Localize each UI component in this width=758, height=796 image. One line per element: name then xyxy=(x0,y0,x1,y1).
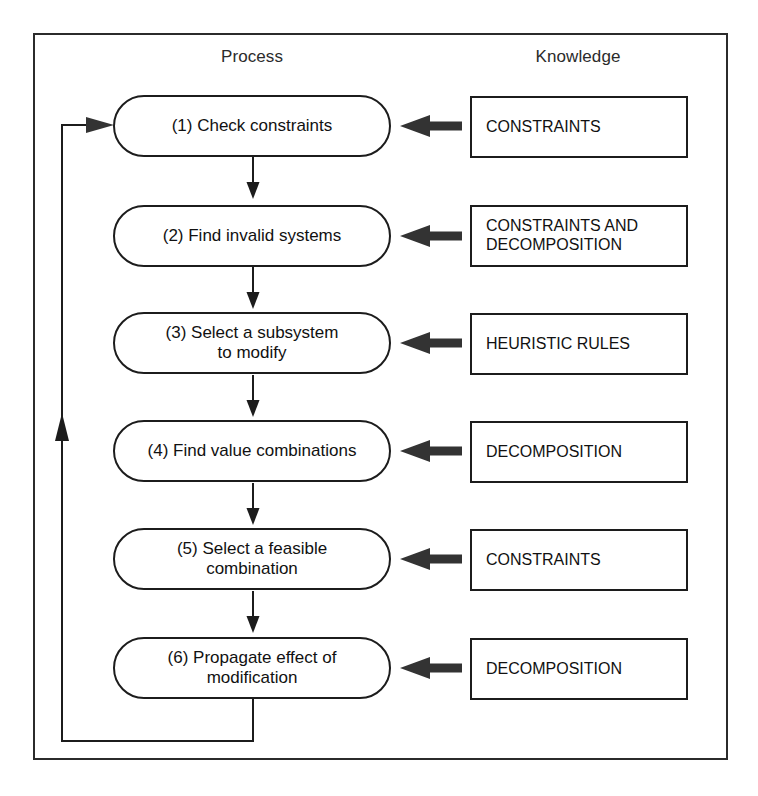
flow-arrow-5-to-6 xyxy=(238,591,268,634)
process-label-3: (3) Select a subsystem to modify xyxy=(156,323,349,363)
process-box-6[interactable]: (6) Propagate effect of modification xyxy=(113,637,391,699)
knowledge-box-2[interactable]: CONSTRAINTS AND DECOMPOSITION xyxy=(470,205,688,267)
process-box-1[interactable]: (1) Check constraints xyxy=(113,95,391,157)
knowledge-arrow-1 xyxy=(400,113,462,139)
knowledge-box-5[interactable]: CONSTRAINTS xyxy=(470,529,688,591)
process-label-4: (4) Find value combinations xyxy=(138,441,367,461)
flowchart-figure: Process Knowledge (1) Check constraints … xyxy=(0,0,758,796)
knowledge-label-3: HEURISTIC RULES xyxy=(472,335,630,354)
process-label-1: (1) Check constraints xyxy=(162,116,343,136)
knowledge-box-3[interactable]: HEURISTIC RULES xyxy=(470,313,688,375)
knowledge-box-4[interactable]: DECOMPOSITION xyxy=(470,421,688,483)
process-box-2[interactable]: (2) Find invalid systems xyxy=(113,205,391,267)
knowledge-label-2: CONSTRAINTS AND DECOMPOSITION xyxy=(472,217,638,254)
knowledge-arrow-5 xyxy=(400,546,462,572)
knowledge-label-5: CONSTRAINTS xyxy=(472,551,601,570)
flow-arrow-3-to-4 xyxy=(238,375,268,418)
knowledge-label-1: CONSTRAINTS xyxy=(472,118,601,137)
process-box-4[interactable]: (4) Find value combinations xyxy=(113,420,391,482)
flow-arrow-4-to-5 xyxy=(238,483,268,526)
process-box-5[interactable]: (5) Select a feasible combination xyxy=(113,528,391,590)
column-header-knowledge: Knowledge xyxy=(478,47,678,67)
process-label-5: (5) Select a feasible combination xyxy=(167,539,337,579)
knowledge-box-6[interactable]: DECOMPOSITION xyxy=(470,638,688,700)
flow-arrow-1-to-2 xyxy=(238,157,268,200)
knowledge-box-1[interactable]: CONSTRAINTS xyxy=(470,96,688,158)
knowledge-arrow-3 xyxy=(400,330,462,356)
knowledge-label-4: DECOMPOSITION xyxy=(472,443,622,462)
knowledge-arrow-2 xyxy=(400,223,462,249)
process-label-2: (2) Find invalid systems xyxy=(153,226,352,246)
process-label-6: (6) Propagate effect of modification xyxy=(158,648,347,688)
knowledge-arrow-6 xyxy=(400,655,462,681)
knowledge-label-6: DECOMPOSITION xyxy=(472,660,622,679)
process-box-3[interactable]: (3) Select a subsystem to modify xyxy=(113,312,391,374)
knowledge-arrow-4 xyxy=(400,438,462,464)
flow-arrow-2-to-3 xyxy=(238,267,268,310)
column-header-process: Process xyxy=(152,47,352,67)
